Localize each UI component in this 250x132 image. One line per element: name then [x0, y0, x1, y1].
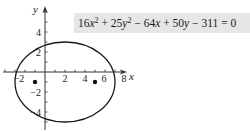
eq-op: + — [160, 17, 172, 29]
x-tick-label: 8 — [122, 73, 127, 84]
eq-coef: 50 — [173, 17, 185, 29]
eq-rhs: = 0 — [218, 17, 236, 29]
eq-op: + — [99, 17, 111, 29]
eq-coef: 16 — [78, 17, 90, 29]
eq-coef: 311 — [201, 17, 218, 29]
x-axis-label: x — [128, 70, 134, 82]
x-tick-label: 2 — [63, 73, 68, 84]
eq-op: − — [189, 17, 201, 29]
y-tick-label: 4 — [36, 27, 41, 38]
eq-coef: 25 — [111, 17, 123, 29]
y-axis — [43, 6, 48, 130]
equation-box: 16x2 + 25y2 − 64x + 50y − 311 = 0 — [74, 13, 250, 33]
y-axis-label: y — [32, 3, 38, 15]
x-tick-label: 6 — [102, 73, 107, 84]
focus-point-left — [33, 80, 37, 84]
y-tick-label: −2 — [30, 87, 41, 98]
focus-point-right — [93, 80, 97, 84]
eq-op: − — [131, 17, 143, 29]
equation-text: 16x2 + 25y2 − 64x + 50y − 311 = 0 — [78, 17, 236, 29]
x-tick-label: 4 — [83, 73, 88, 84]
eq-coef: 64 — [144, 17, 156, 29]
